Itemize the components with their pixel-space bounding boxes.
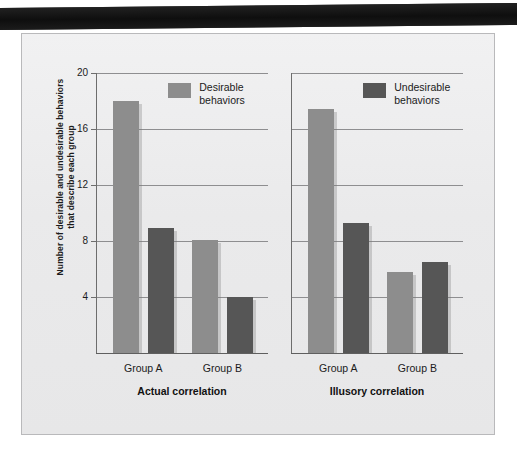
y-axis-spine [291,73,292,354]
bar [192,240,218,353]
scan-top-band [0,3,517,30]
chart-plot-area: Number of desirable and undesirable beha… [22,34,496,436]
legend-swatch [363,83,386,98]
y-tick-label: 8 [66,236,88,246]
panel-label: Actual correlation [96,385,268,397]
bar-shadow [139,104,142,353]
x-axis-group-label: Group B [367,362,467,374]
bar [422,262,448,353]
legend-label-line1: Desirable [199,81,245,94]
bar [343,223,369,353]
bar-shadow [413,275,416,353]
legend-label: Undesirablebehaviors [394,81,450,106]
legend-label: Desirablebehaviors [199,81,245,106]
panel-label: Illusory correlation [291,385,463,397]
x-axis-group-label: Group B [172,362,272,374]
gridline [291,73,463,74]
page-root: Number of desirable and undesirable beha… [0,0,517,458]
scan-top-band-shade [0,3,517,30]
y-axis-title: Number of desirable and undesirable beha… [55,77,77,277]
legend-label-line1: Undesirable [394,81,450,94]
bar-shadow [253,300,256,353]
bar-shadow [334,112,337,353]
bar [227,297,253,353]
legend-label-line2: behaviors [199,94,245,107]
figure-panel: Number of desirable and undesirable beha… [21,33,495,435]
y-tick-label: 16 [66,124,88,134]
legend-swatch [168,83,191,98]
bar-shadow [174,231,177,353]
bar-shadow [218,243,221,353]
bar [387,272,413,353]
bar [148,228,174,353]
x-axis-spine [96,353,268,354]
legend-label-line2: behaviors [394,94,450,107]
x-axis-spine [291,353,463,354]
y-tick-label: 12 [66,180,88,190]
bar-shadow [448,265,451,353]
bar-shadow [369,226,372,353]
bar [113,101,139,353]
y-axis-spine [96,73,97,354]
y-tick-label: 20 [66,68,88,78]
bar [308,109,334,353]
y-tick-label: 4 [66,292,88,302]
gridline [96,73,268,74]
